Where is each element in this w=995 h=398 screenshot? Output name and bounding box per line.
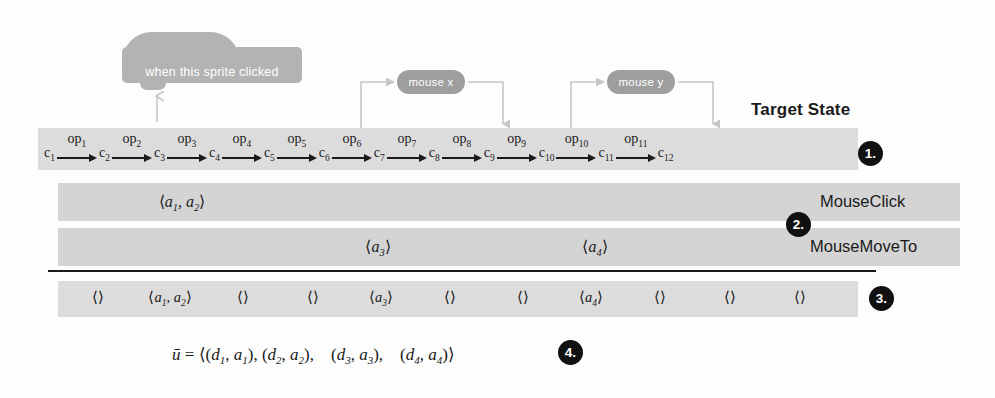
combined-tuple: ⟨⟩ [92, 289, 104, 306]
state-node: c8 [429, 145, 440, 163]
callout-1: 1. [858, 141, 883, 166]
scratch-hat-block-label: when this sprite clicked [145, 65, 278, 79]
op-arrow: op6 [330, 138, 374, 164]
combined-tuple: ⟨⟩ [237, 289, 249, 306]
state-node: c2 [99, 145, 110, 163]
state-node: c9 [484, 145, 495, 163]
state-node: c1 [44, 145, 55, 163]
section-divider [48, 270, 876, 272]
combined-tuple: ⟨⟩ [794, 289, 806, 306]
target-state-label: Target State [751, 100, 850, 120]
mousemoveto-tuple-2: ⟨a4⟩ [582, 237, 607, 258]
utterance-formula: ū = ⟨(d1, a1), (d2, a2), (d3, a3), (d4, … [172, 344, 455, 366]
combined-tuple: ⟨⟩ [724, 289, 736, 306]
op-arrow: op8 [440, 138, 484, 164]
combined-tuple: ⟨⟩ [654, 289, 666, 306]
state-node: c11 [598, 145, 613, 163]
callout-3: 3. [869, 286, 894, 311]
mousemoveto-tuple-1: ⟨a3⟩ [365, 237, 390, 258]
callout-4: 4. [558, 340, 583, 365]
reporter-mouse-x[interactable]: mouse x [397, 70, 465, 94]
state-node: c10 [539, 145, 555, 163]
reporter-mouse-x-label: mouse x [409, 76, 454, 88]
combined-tuple: ⟨⟩ [444, 289, 456, 306]
state-node: c6 [319, 145, 330, 163]
op-arrow: op5 [275, 138, 319, 164]
op-arrow: op2 [110, 138, 154, 164]
combined-tuple: ⟨a3⟩ [369, 289, 393, 308]
mouseclick-tuple: ⟨a1, a2⟩ [159, 192, 206, 213]
state-transition-chain: c1 op1 c2 op2 c3 op3 c4 op4 c5 op5 c6 op… [44, 138, 674, 164]
row-label-mouseclick: MouseClick [820, 192, 905, 211]
state-node: c7 [374, 145, 385, 163]
scratch-hat-block[interactable]: when this sprite clicked [122, 47, 302, 83]
reporter-mouse-y-label: mouse y [619, 76, 664, 88]
callout-2: 2. [786, 212, 811, 237]
op-arrow: op11 [614, 138, 658, 164]
combined-tuple: ⟨⟩ [307, 289, 319, 306]
op-arrow: op1 [55, 138, 99, 164]
reporter-mouse-y[interactable]: mouse y [607, 70, 675, 94]
op-arrow: op9 [495, 138, 539, 164]
state-node: c5 [264, 145, 275, 163]
op-arrow: op10 [554, 138, 598, 164]
op-arrow: op4 [220, 138, 264, 164]
row-label-mousemoveto: MouseMoveTo [810, 237, 917, 256]
op-arrow: op3 [165, 138, 209, 164]
state-node: c12 [658, 145, 674, 163]
state-node: c3 [154, 145, 165, 163]
combined-tuple: ⟨a4⟩ [579, 289, 603, 308]
state-node: c4 [209, 145, 220, 163]
op-arrow: op7 [385, 138, 429, 164]
figure-canvas: when this sprite clicked mouse x mouse y [0, 0, 995, 398]
combined-tuple: ⟨a1, a2⟩ [148, 289, 191, 308]
combined-tuple: ⟨⟩ [517, 289, 529, 306]
